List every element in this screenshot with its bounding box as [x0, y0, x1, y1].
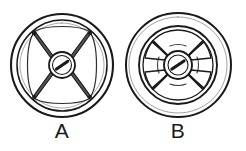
wheel-a-node-ll: [32, 95, 36, 99]
wheel-a-node-ul: [32, 31, 37, 36]
figure-label-a: A: [42, 120, 82, 141]
wheel-a-node-ur: [88, 31, 92, 35]
wheel-diagram-svg: [0, 0, 246, 151]
wheel-a-node-lr: [88, 95, 92, 99]
figure-label-b: B: [158, 120, 198, 141]
figure-panel: A B: [0, 0, 246, 151]
